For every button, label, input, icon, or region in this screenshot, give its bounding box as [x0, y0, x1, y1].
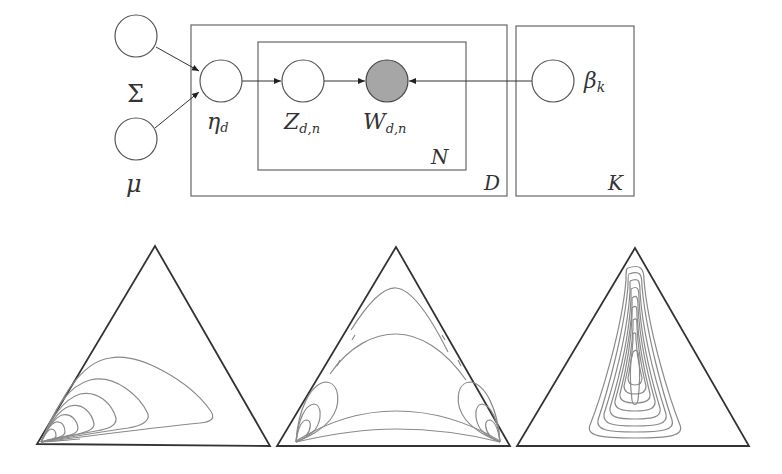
plate-n-label: N: [430, 145, 450, 169]
edge-mu-eta: [155, 92, 199, 128]
node-mu: μ: [115, 118, 157, 198]
plate-k: K: [516, 26, 634, 196]
plate-d-label: D: [483, 171, 500, 195]
z-label: Zd,n: [283, 109, 320, 136]
w-label: Wd,n: [363, 109, 406, 136]
simplex-3: [517, 248, 749, 446]
node-w-observed: Wd,n: [363, 60, 408, 136]
plate-n: N: [258, 42, 466, 170]
mu-label: μ: [126, 170, 142, 198]
node-z: Zd,n: [282, 60, 324, 136]
beta-label: βk: [583, 68, 605, 95]
node-eta: ηd: [200, 60, 242, 135]
sigma-label: Σ: [127, 80, 144, 108]
edge-sigma-eta: [156, 47, 199, 71]
plate-k-label: K: [607, 171, 624, 195]
eta-label: ηd: [207, 109, 229, 135]
node-beta: βk: [532, 60, 605, 102]
simplex-1: [37, 246, 270, 446]
node-sigma: Σ: [115, 15, 157, 108]
simplex-2: [277, 247, 510, 446]
lda-ctm-figure: D N K Σ μ ηd Zd,n Wd,n βk: [0, 0, 782, 474]
